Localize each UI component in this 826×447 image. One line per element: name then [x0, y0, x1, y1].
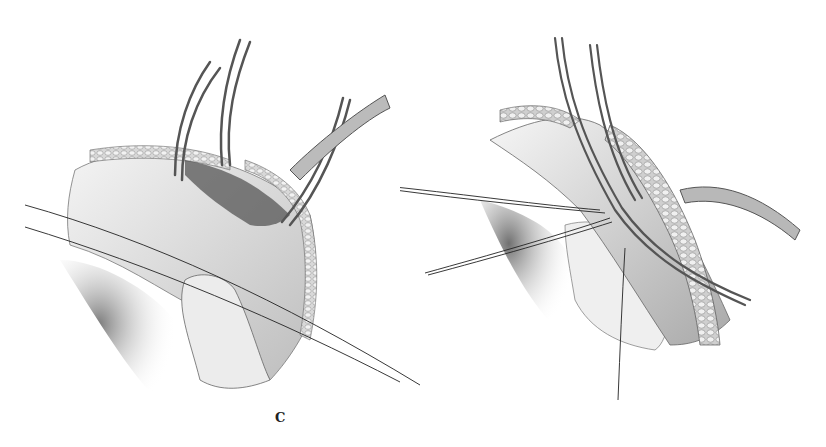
- surgical-drawing-d: [400, 0, 826, 447]
- panel-label-c: C: [275, 410, 286, 425]
- illustration-panel-d: D: [400, 0, 826, 447]
- surgical-drawing-c: [0, 0, 420, 447]
- illustration-panel-c: C: [0, 0, 420, 447]
